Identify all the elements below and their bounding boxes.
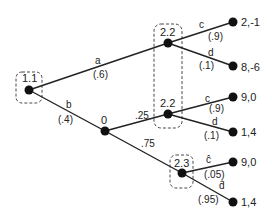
prob-c-lower: (.9)	[209, 103, 224, 114]
action-dhat: d̂	[219, 180, 225, 191]
node-label-p2a: 2.2	[160, 26, 175, 38]
terminal-1	[229, 18, 238, 27]
prob-d-lower: (.1)	[204, 130, 219, 141]
node-label-p2b: 2.2	[160, 97, 175, 109]
node-root	[25, 86, 34, 95]
action-d-lower: d	[212, 116, 218, 127]
terminal-2	[229, 62, 238, 71]
node-chance	[101, 127, 110, 136]
node-p2b	[164, 110, 173, 119]
prob-dhat: (.95)	[198, 194, 219, 205]
terminal-5	[229, 158, 238, 167]
action-a: a	[95, 55, 101, 66]
node-p2a	[164, 39, 173, 48]
payoff-5: 9,0	[241, 156, 256, 168]
prob-chat: (.05)	[204, 169, 225, 180]
action-c-upper: c	[199, 19, 204, 30]
terminal-4	[229, 128, 238, 137]
action-chat: ĉ	[206, 154, 211, 165]
prob-c-upper: (.9)	[208, 31, 223, 42]
prob-b: (.4)	[58, 114, 73, 125]
action-d-upper: d	[208, 47, 214, 58]
prob-chance-75: .75	[141, 138, 155, 149]
payoff-3: 9,0	[241, 91, 256, 103]
terminal-3	[229, 93, 238, 102]
prob-a: (.6)	[93, 69, 108, 80]
payoff-1: 2,-1	[241, 16, 260, 28]
action-b: b	[66, 99, 72, 110]
prob-chance-25: .25	[135, 110, 149, 121]
edge-d-lower	[168, 114, 233, 132]
payoff-4: 1,4	[241, 126, 256, 138]
game-tree-diagram: 1.1 2.2 0 2.2 2.3 2,-1 8,-6 9,0 1,4 9,0 …	[0, 0, 272, 219]
prob-d-upper: (.1)	[199, 60, 214, 71]
payoff-2: 8,-6	[241, 61, 260, 73]
node-p3	[178, 169, 187, 178]
edge-a	[29, 43, 168, 90]
payoff-6: 1,4	[241, 196, 256, 208]
node-label-chance: 0	[101, 114, 107, 126]
node-label-p3: 2.3	[174, 157, 189, 169]
node-label-root: 1.1	[22, 72, 37, 84]
terminal-6	[229, 198, 238, 207]
